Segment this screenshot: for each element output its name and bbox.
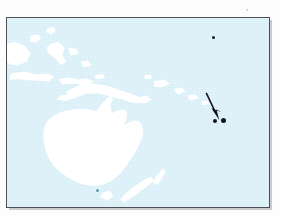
- map-frame: [6, 17, 270, 208]
- land-new-britain: [154, 80, 170, 88]
- scan-speck-icon: [246, 9, 248, 11]
- land-maluku-isles-b: [80, 61, 91, 68]
- land-java: [9, 72, 55, 82]
- land-nz-south-island: [120, 177, 154, 203]
- land-philippines-fragments: [30, 34, 41, 43]
- land-timor: [57, 93, 77, 101]
- figure-page: [0, 0, 281, 216]
- marker-highlighted-island-west: [213, 119, 217, 123]
- land-borneo: [7, 42, 31, 66]
- marker-southern-island-speck: [96, 189, 99, 192]
- land-australia-mainland: [43, 99, 143, 185]
- marker-north-east-island-speck: [212, 36, 215, 39]
- land-solomon-b: [188, 94, 199, 100]
- land-arafura-speck: [94, 74, 105, 80]
- land-tasmania: [100, 191, 113, 201]
- land-north-speck-a: [46, 27, 56, 34]
- land-maluku-isles: [69, 48, 79, 56]
- landmass-group: [7, 27, 209, 203]
- marker-highlighted-island-east: [221, 118, 226, 123]
- land-nz-north-island: [153, 169, 166, 185]
- annotation-arrow: [206, 93, 221, 120]
- land-solomon-c: [202, 100, 210, 105]
- land-sulawesi: [47, 42, 67, 65]
- land-bismarck-speck: [144, 75, 152, 80]
- land-solomon-a: [174, 87, 186, 94]
- map-landmass-layer: [7, 18, 269, 208]
